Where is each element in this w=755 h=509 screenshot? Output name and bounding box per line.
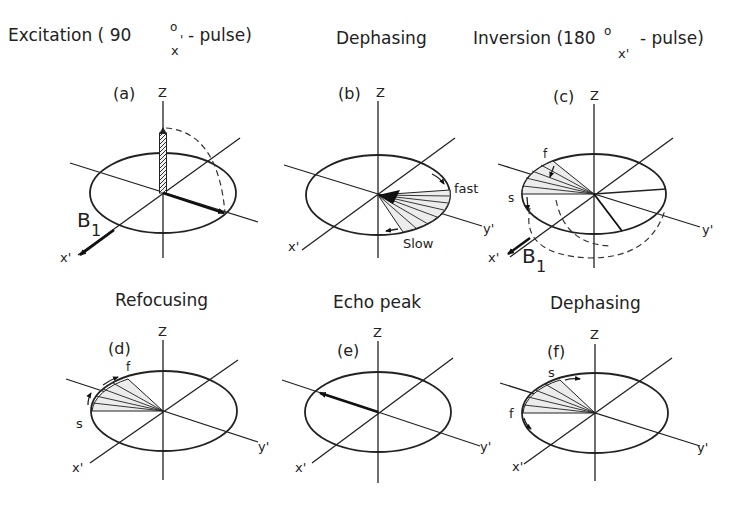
s-label: s (508, 191, 514, 205)
slow-label: Slow (403, 236, 434, 251)
y-axis (498, 164, 700, 227)
panel-label: (f) (547, 342, 565, 361)
f-label: f (543, 147, 548, 161)
reflected-vector (594, 194, 622, 231)
b1-subscript: 1 (536, 257, 546, 276)
panel-b: (b) Z x' y' fast Slow (284, 84, 494, 258)
panel-label: (e) (337, 341, 359, 360)
z-axis-label: Z (158, 85, 167, 100)
degree-symbol: o (170, 20, 177, 34)
title-excitation: Excitation ( 90 o x ' - pulse) (8, 20, 252, 58)
fast-label: fast (454, 181, 478, 196)
y-axis (500, 383, 700, 446)
x-axis-label: x' (512, 459, 523, 474)
b1-label: B (522, 244, 536, 268)
subscript-x: x (171, 43, 179, 58)
dephasing-fan (523, 380, 595, 413)
panel-label: (a) (113, 84, 135, 103)
b1-label: B (77, 208, 91, 232)
title-inversion-tail: - pulse) (640, 28, 704, 48)
inversion-path-outer (529, 208, 665, 258)
y-axis-label: y' (483, 221, 494, 236)
degree-symbol: o (604, 24, 611, 38)
panel-d-y-axis-label: y' (258, 439, 269, 454)
title-echo-peak: Echo peak (333, 292, 421, 312)
panel-label: (c) (553, 87, 574, 106)
arrowhead (159, 127, 167, 134)
x-axis-label: x' (60, 250, 71, 265)
x-axis (510, 138, 673, 257)
x-axis-label: x' (288, 239, 299, 254)
z-axis-label: Z (590, 327, 599, 342)
y-axis-label: y' (480, 439, 491, 454)
b1-subscript: 1 (91, 221, 101, 240)
y-axis-label: y' (702, 222, 713, 237)
prime-symbol: ' (180, 33, 183, 47)
refocusing-fan (92, 379, 163, 411)
title-refocusing: Refocusing (115, 290, 208, 310)
z-axis-label: Z (158, 324, 167, 339)
f-label: f (509, 406, 514, 421)
panel-f: (f) Z x' y' y' s f (500, 327, 708, 481)
reflected-ray (594, 189, 666, 194)
magnetization-vector-initial (160, 133, 167, 193)
title-inversion: Inversion (180 o x' - pulse) (473, 24, 704, 61)
x-axis-label: x' (488, 250, 499, 265)
title-inversion-text: Inversion (180 (473, 28, 596, 48)
z-axis-label: Z (373, 325, 382, 340)
x-axis-label: x' (72, 460, 83, 475)
s-label: s (76, 416, 83, 431)
panel-d: (d) Z x' f s (66, 324, 258, 480)
title-excitation-tail: - pulse) (188, 25, 252, 45)
z-axis-label: Z (376, 85, 385, 100)
panel-c: (c) Z B 1 x' y' f s (488, 87, 713, 276)
panel-label: (b) (338, 84, 361, 103)
magnetization-vector-final (163, 193, 224, 213)
y-axis-label: y' (697, 440, 708, 455)
s-label: s (548, 365, 555, 380)
z-axis-label: Z (590, 88, 599, 103)
title-dephasing-top: Dephasing (336, 28, 427, 48)
title-excitation-text: Excitation ( 90 (8, 25, 131, 45)
subscript-x-prime: x' (618, 46, 629, 61)
title-dephasing-bottom: Dephasing (550, 293, 641, 313)
s-arrow (88, 393, 91, 405)
f-label: f (126, 360, 131, 374)
panel-e: (e) Z x' y' y' (258, 325, 491, 483)
slow-arrow (386, 229, 398, 231)
spin-echo-diagram: Excitation ( 90 o x ' - pulse) Dephasing… (0, 0, 755, 509)
x-axis-label: x' (295, 460, 306, 475)
echo-vector (320, 393, 378, 412)
x-axis (312, 358, 453, 463)
panel-label: (d) (108, 339, 131, 358)
panel-a: (a) Z B 1 x' (60, 84, 258, 265)
dephasing-fan (522, 161, 594, 194)
s-arrow (565, 379, 580, 380)
